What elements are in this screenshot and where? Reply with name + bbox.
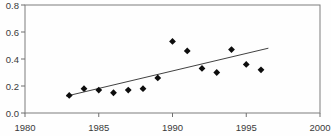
data-point-marker — [199, 65, 206, 72]
data-point-marker — [243, 61, 250, 68]
data-point-marker — [258, 66, 265, 73]
data-point-marker — [140, 85, 147, 92]
data-point-marker — [228, 46, 235, 53]
scatter-plot: 198019851990199520000.00.20.40.60.8 — [0, 0, 331, 136]
data-point-marker — [213, 69, 220, 76]
y-tick-label: 0.4 — [6, 54, 19, 65]
chart-figure: 198019851990199520000.00.20.40.60.8 — [0, 0, 331, 136]
data-point-marker — [154, 75, 161, 82]
data-point-marker — [169, 38, 176, 45]
data-point-marker — [110, 89, 117, 96]
x-tick-label: 1985 — [88, 122, 109, 133]
data-point-marker — [184, 48, 191, 55]
data-point-marker — [66, 92, 73, 99]
x-tick-label: 1995 — [236, 122, 257, 133]
y-tick-label: 0.0 — [6, 108, 19, 119]
x-tick-label: 1990 — [162, 122, 183, 133]
y-tick-label: 0.8 — [6, 0, 19, 11]
x-tick-label: 2000 — [309, 122, 330, 133]
y-tick-label: 0.2 — [6, 81, 19, 92]
x-tick-label: 1980 — [14, 122, 35, 133]
data-point-marker — [125, 87, 132, 94]
y-tick-label: 0.6 — [6, 27, 19, 38]
